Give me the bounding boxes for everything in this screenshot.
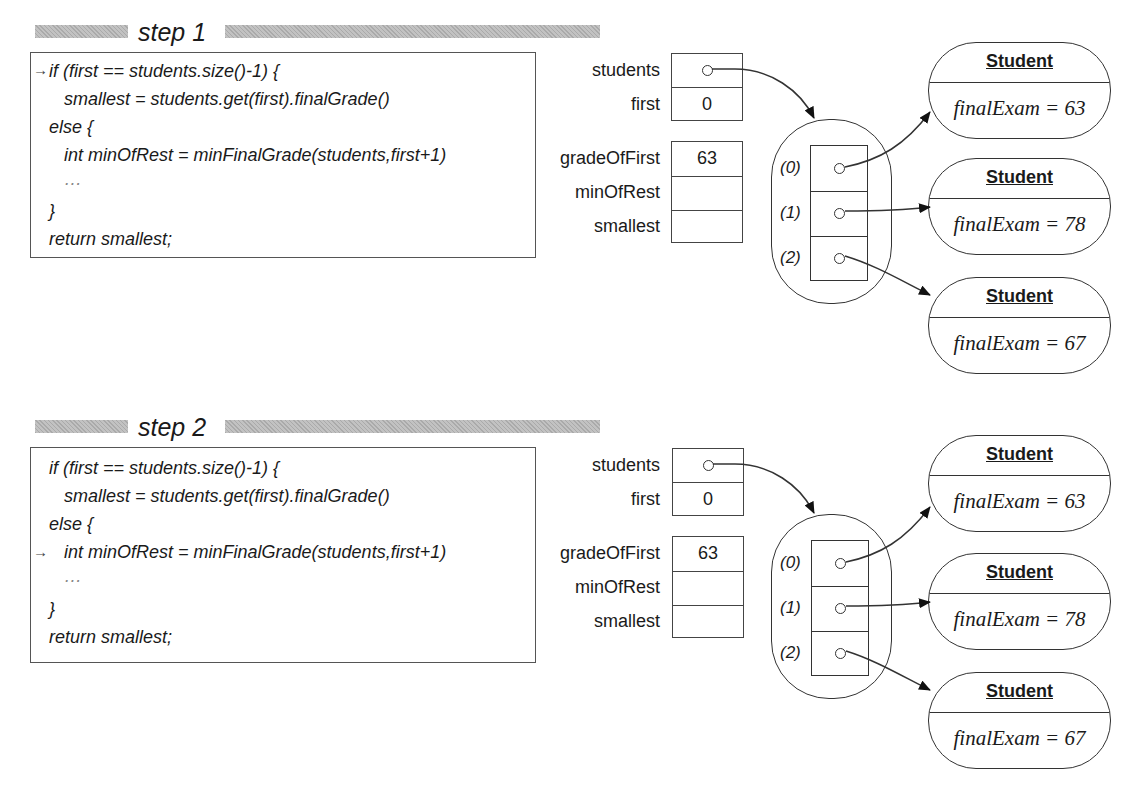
var-label-gradeOfFirst: gradeOfFirst (530, 149, 660, 167)
array-index-label: (2) (780, 644, 801, 661)
current-line-arrow-icon: → (33, 544, 48, 559)
student-object: Student finalExam = 67 (928, 277, 1111, 374)
code-line: if (first == students.size()-1) { (49, 459, 279, 477)
params-frame: 0 (671, 53, 743, 121)
object-class-name: Student (929, 52, 1110, 72)
var-cell-students (673, 449, 743, 482)
object-divider (929, 593, 1110, 594)
step-title: step 1 (138, 20, 206, 45)
code-line: } (49, 600, 55, 618)
array-cells (810, 145, 868, 281)
array-cell (811, 236, 867, 281)
object-divider (929, 198, 1110, 199)
var-label-students: students (530, 61, 660, 79)
step-header-bar-left (35, 420, 128, 433)
object-class-name: Student (929, 682, 1110, 702)
code-line: … (49, 170, 82, 188)
object-divider (929, 475, 1110, 476)
code-line: else { (49, 118, 93, 136)
object-field: finalExam = 67 (929, 728, 1110, 749)
reference-dot-icon (834, 253, 845, 264)
reference-dot-icon (703, 460, 714, 471)
locals-frame: 63 (671, 141, 743, 243)
reference-dot-icon (702, 65, 713, 76)
object-field: finalExam = 67 (929, 333, 1110, 354)
object-divider (929, 317, 1110, 318)
array-cell (812, 631, 868, 676)
step-header-bar-right (225, 25, 600, 38)
var-cell-smallest (672, 210, 742, 243)
object-class-name: Student (929, 168, 1110, 188)
reference-dot-icon (835, 648, 846, 659)
object-field: finalExam = 78 (929, 609, 1110, 630)
object-divider (929, 82, 1110, 83)
array-index-label: (1) (780, 204, 801, 221)
code-line: return smallest; (49, 230, 172, 248)
code-line: int minOfRest = minFinalGrade(students,f… (49, 543, 446, 561)
array-cell (812, 586, 868, 631)
object-field: finalExam = 78 (929, 214, 1110, 235)
student-object: Student finalExam = 67 (928, 672, 1111, 769)
array-index-label: (1) (780, 599, 801, 616)
object-divider (929, 712, 1110, 713)
var-label-smallest: smallest (530, 612, 660, 630)
step-header-bar-right (225, 420, 600, 433)
array-cell (811, 191, 867, 236)
var-label-first: first (530, 95, 660, 113)
array-index-label: (0) (780, 159, 801, 176)
var-cell-students (672, 54, 742, 87)
var-cell-first: 0 (673, 482, 743, 516)
var-label-minOfRest: minOfRest (530, 183, 660, 201)
step-1-panel: step 1 → if (first == students.size()-1)… (0, 0, 1138, 395)
step-2-panel: step 2 if (first == students.size()-1) {… (0, 395, 1138, 790)
var-cell-gradeOfFirst: 63 (673, 537, 743, 571)
code-line: int minOfRest = minFinalGrade(students,f… (49, 146, 446, 164)
reference-dot-icon (835, 558, 846, 569)
code-line: smallest = students.get(first).finalGrad… (49, 90, 390, 108)
array-cells (811, 540, 869, 676)
var-cell-minOfRest (673, 571, 743, 605)
code-line: } (49, 202, 55, 220)
reference-dot-icon (834, 163, 845, 174)
reference-dot-icon (835, 603, 846, 614)
student-object: Student finalExam = 63 (928, 435, 1111, 532)
object-field: finalExam = 63 (929, 491, 1110, 512)
object-class-name: Student (929, 563, 1110, 583)
step-title: step 2 (138, 415, 206, 440)
object-class-name: Student (929, 287, 1110, 307)
var-cell-gradeOfFirst: 63 (672, 142, 742, 176)
student-object: Student finalExam = 78 (928, 553, 1111, 650)
var-label-students: students (530, 456, 660, 474)
object-field: finalExam = 63 (929, 98, 1110, 119)
params-frame: 0 (672, 448, 744, 516)
var-cell-minOfRest (672, 176, 742, 210)
code-box: → if (first == students.size()-1) { smal… (30, 52, 536, 258)
array-index-label: (2) (780, 249, 801, 266)
code-line: else { (49, 515, 93, 533)
object-class-name: Student (929, 445, 1110, 465)
var-label-gradeOfFirst: gradeOfFirst (530, 544, 660, 562)
var-cell-first: 0 (672, 87, 742, 121)
code-line: return smallest; (49, 628, 172, 646)
array-index-label: (0) (780, 554, 801, 571)
student-object: Student finalExam = 78 (928, 158, 1111, 255)
var-cell-smallest (673, 605, 743, 638)
locals-frame: 63 (672, 536, 744, 638)
code-line: smallest = students.get(first).finalGrad… (49, 487, 390, 505)
code-line: … (49, 567, 82, 585)
current-line-arrow-icon: → (33, 62, 48, 77)
step-header-bar-left (35, 25, 128, 38)
var-label-smallest: smallest (530, 217, 660, 235)
var-label-first: first (530, 490, 660, 508)
array-cell (812, 541, 868, 586)
reference-dot-icon (834, 208, 845, 219)
array-cell (811, 146, 867, 191)
code-line: if (first == students.size()-1) { (49, 62, 279, 80)
student-object: Student finalExam = 63 (928, 42, 1111, 139)
var-label-minOfRest: minOfRest (530, 578, 660, 596)
code-box: if (first == students.size()-1) { smalle… (30, 447, 536, 663)
